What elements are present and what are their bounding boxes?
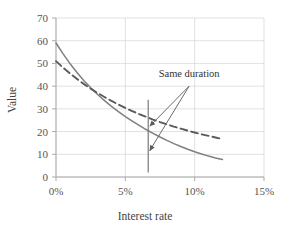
y-tick-label: 10 <box>37 148 49 160</box>
y-tick-label: 30 <box>37 103 49 115</box>
same-duration-label: Same duration <box>159 68 221 79</box>
y-tick-label: 50 <box>37 57 49 69</box>
y-tick-label: 40 <box>37 80 49 92</box>
interest-rate-value-chart: Same duration 0102030405060700%5%10%15% … <box>0 0 291 227</box>
y-tick-label: 0 <box>43 171 49 183</box>
chart-container: Same duration 0102030405060700%5%10%15% … <box>0 0 291 227</box>
x-axis-title: Interest rate <box>118 210 173 222</box>
x-tick-label: 0% <box>49 185 64 197</box>
y-tick-label: 60 <box>37 35 49 47</box>
y-tick-label: 70 <box>37 12 49 24</box>
x-tick-label: 5% <box>118 185 133 197</box>
x-tick-label: 15% <box>254 185 274 197</box>
y-tick-label: 20 <box>37 126 49 138</box>
x-tick-label: 10% <box>185 185 205 197</box>
y-axis-title: Value <box>6 87 18 113</box>
